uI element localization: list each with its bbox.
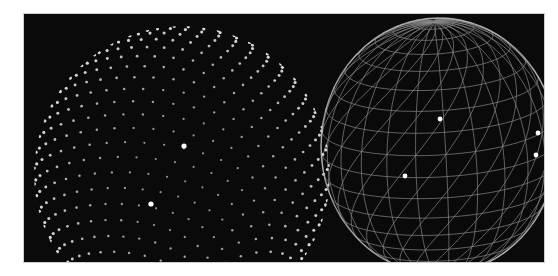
- sphere-renderings: [24, 14, 544, 262]
- wireframe-sphere: [321, 18, 544, 262]
- point-cloud-sphere: [33, 25, 331, 262]
- figure: [23, 13, 545, 263]
